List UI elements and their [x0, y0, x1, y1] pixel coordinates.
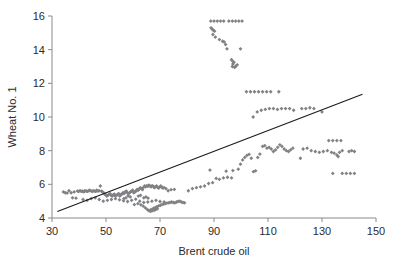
- y-axis-title: Wheat No. 1: [6, 86, 18, 147]
- data-point: [199, 185, 203, 189]
- data-point: [239, 47, 243, 51]
- x-tick-label: 90: [208, 225, 220, 237]
- data-point: [105, 198, 109, 202]
- scatter-plot: 4681012141630507090110130150Brent crude …: [0, 0, 397, 266]
- data-point: [353, 171, 357, 175]
- data-point: [251, 115, 255, 119]
- data-point: [239, 162, 243, 166]
- data-point: [226, 175, 230, 179]
- data-point: [241, 158, 245, 162]
- data-point: [234, 19, 238, 23]
- data-point: [208, 168, 212, 172]
- data-point: [191, 187, 195, 191]
- y-tick-label: 12: [33, 77, 45, 89]
- data-point: [253, 90, 257, 94]
- data-point: [317, 150, 321, 154]
- x-tick-label: 50: [100, 225, 112, 237]
- data-point: [272, 107, 276, 111]
- data-point: [214, 177, 218, 181]
- data-point: [313, 150, 317, 154]
- data-point: [101, 199, 105, 203]
- data-point: [340, 171, 344, 175]
- data-point: [305, 146, 309, 150]
- data-point: [309, 149, 313, 153]
- x-axis-title: Brent crude oil: [179, 245, 250, 257]
- data-point: [222, 19, 226, 23]
- data-point: [212, 19, 216, 23]
- data-point: [134, 197, 138, 201]
- data-point: [154, 198, 158, 202]
- data-point: [218, 38, 222, 42]
- data-point: [326, 149, 330, 153]
- data-point: [249, 90, 253, 94]
- x-tick-label: 130: [313, 225, 331, 237]
- data-point: [186, 189, 190, 193]
- data-point: [230, 19, 234, 23]
- data-point: [158, 200, 162, 204]
- data-point: [339, 139, 343, 143]
- data-point: [231, 169, 235, 173]
- data-point: [74, 196, 78, 200]
- y-tick-label: 8: [39, 145, 45, 157]
- data-point: [227, 19, 231, 23]
- data-point: [284, 107, 288, 111]
- data-point: [224, 169, 228, 173]
- data-point: [312, 107, 316, 111]
- x-tick-label: 110: [259, 225, 277, 237]
- data-point: [150, 199, 154, 203]
- data-point: [276, 145, 280, 149]
- data-point: [222, 176, 226, 180]
- data-point: [225, 47, 229, 51]
- data-point: [308, 106, 312, 110]
- data-point: [146, 200, 150, 204]
- data-point: [211, 33, 215, 37]
- data-point: [267, 107, 271, 111]
- data-point: [97, 198, 101, 202]
- chart-container: 4681012141630507090110130150Brent crude …: [0, 0, 397, 266]
- data-point: [255, 110, 259, 114]
- data-point: [195, 186, 199, 190]
- data-point: [348, 171, 352, 175]
- data-point: [344, 171, 348, 175]
- data-point: [237, 19, 241, 23]
- data-point: [259, 108, 263, 112]
- data-point: [218, 177, 222, 181]
- data-point: [258, 152, 262, 156]
- y-tick-label: 14: [33, 44, 45, 56]
- data-point: [240, 19, 244, 23]
- data-point: [327, 139, 331, 143]
- data-point: [288, 107, 292, 111]
- data-point: [276, 108, 280, 112]
- data-point: [71, 196, 75, 200]
- data-point: [130, 198, 134, 202]
- data-point: [335, 139, 339, 143]
- data-point: [331, 139, 335, 143]
- data-point: [292, 108, 296, 112]
- data-point: [321, 150, 325, 154]
- data-point: [269, 90, 273, 94]
- data-point: [203, 184, 207, 188]
- x-tick-label: 70: [154, 225, 166, 237]
- data-point: [142, 201, 146, 205]
- data-point: [280, 107, 284, 111]
- data-points-layer: [61, 19, 356, 213]
- y-tick-label: 16: [33, 10, 45, 22]
- data-point: [277, 90, 281, 94]
- data-point: [209, 19, 213, 23]
- data-point: [257, 90, 261, 94]
- data-point: [236, 167, 240, 171]
- data-point: [299, 156, 303, 160]
- data-point: [265, 90, 269, 94]
- data-point: [230, 176, 234, 180]
- data-point: [172, 187, 176, 191]
- data-point: [207, 182, 211, 186]
- data-point: [110, 198, 114, 202]
- data-point: [169, 188, 173, 192]
- data-point: [249, 156, 253, 160]
- trend-line: [57, 94, 362, 211]
- data-point: [211, 181, 215, 185]
- data-point: [118, 198, 122, 202]
- data-point: [256, 156, 260, 160]
- data-point: [245, 90, 249, 94]
- data-point: [126, 200, 130, 204]
